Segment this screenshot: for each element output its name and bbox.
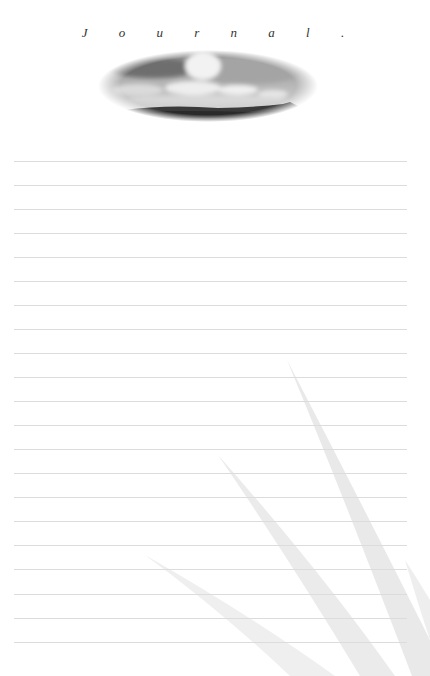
ruled-line <box>14 257 407 258</box>
ruled-line <box>14 209 407 210</box>
ruled-line <box>14 281 407 282</box>
ruled-line <box>14 377 407 378</box>
ruled-line <box>14 642 407 643</box>
ruled-line <box>14 497 407 498</box>
ruled-line <box>14 449 407 450</box>
ruled-line <box>14 305 407 306</box>
ruled-line <box>14 473 407 474</box>
ruled-line <box>14 521 407 522</box>
ruled-line <box>14 594 407 595</box>
ruled-line <box>14 545 407 546</box>
ruled-line <box>14 185 407 186</box>
ruled-lines[interactable] <box>14 0 407 676</box>
journal-page: J o u r n a l . <box>0 0 430 676</box>
ruled-line <box>14 618 407 619</box>
ruled-line <box>14 161 407 162</box>
ruled-line <box>14 401 407 402</box>
ruled-line <box>14 353 407 354</box>
ruled-line <box>14 329 407 330</box>
ruled-line <box>14 425 407 426</box>
ruled-line <box>14 233 407 234</box>
ruled-line <box>14 569 407 570</box>
